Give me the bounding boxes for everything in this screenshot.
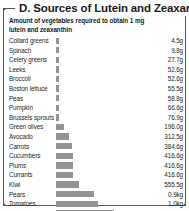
chart-row-label: Carrots xyxy=(9,142,56,152)
chart-bar xyxy=(56,191,94,197)
chart-row: Kiwi555.5g xyxy=(9,180,183,190)
chart-row-value: 9.8g xyxy=(153,46,183,56)
chart-row-value: 58.8g xyxy=(153,94,183,104)
chart-row-value: 4.5g xyxy=(153,36,183,46)
chart-bar-track xyxy=(56,94,153,104)
chart-bar xyxy=(56,76,59,82)
chart-row: Peas58.8g xyxy=(9,94,183,104)
chart-row-label: Spinach xyxy=(9,46,56,56)
chart-bar xyxy=(56,133,69,139)
chart-row: Leeks52.6g xyxy=(9,65,183,75)
chart-row-label: Kiwi xyxy=(9,180,56,190)
chart-bar-track xyxy=(56,190,153,200)
chart-row: Pumpkin66.6g xyxy=(9,103,183,113)
chart-bar-track xyxy=(56,170,153,180)
chart-row-label: Broccoli xyxy=(9,74,56,84)
chart-row: Broccoli52.6g xyxy=(9,74,183,84)
chart-row: Plums416.6g xyxy=(9,161,183,171)
chart-row-value: 1.0kg xyxy=(153,199,183,209)
chart-row-value: 52.6g xyxy=(153,65,183,75)
chart-row-value: 66.6g xyxy=(153,103,183,113)
chart-bar-track xyxy=(56,55,153,65)
chart-row: Grapes1.38kg xyxy=(9,209,183,211)
chart-row-label: Currants xyxy=(9,170,56,180)
panel-frame-right-edge xyxy=(185,8,186,206)
chart-bar xyxy=(56,143,72,149)
chart-row-value: 27.7g xyxy=(153,55,183,65)
chart-bar-track xyxy=(56,142,153,152)
chart-row-label: Collard greens xyxy=(9,36,56,46)
chart-row-value: 555.5g xyxy=(153,180,183,190)
chart-bar-track xyxy=(56,46,153,56)
chart-row-value: 52.6g xyxy=(153,74,183,84)
chart-bar-track xyxy=(56,161,153,171)
chart-row: Cucumbers416.6g xyxy=(9,151,183,161)
chart-row-value: 384.6g xyxy=(153,142,183,152)
panel-title: D. Sources of Lutein and Zeaxanthin xyxy=(17,0,189,16)
chart-row-value: 55.5g xyxy=(153,84,183,94)
chart-bar-track xyxy=(56,36,153,46)
chart-row-label: Leeks xyxy=(9,65,56,75)
chart-row-value: 76.9g xyxy=(153,113,183,123)
chart-bar-track xyxy=(56,113,153,123)
chart-row: Boston lettuce55.5g xyxy=(9,84,183,94)
chart-row-label: Avocado xyxy=(9,132,56,142)
chart-bar xyxy=(56,181,79,187)
chart-bar xyxy=(56,85,59,91)
chart-bar xyxy=(56,105,59,111)
chart-bar xyxy=(56,95,59,101)
chart-row: Carrots384.6g xyxy=(9,142,183,152)
chart-row-value: 196.0g xyxy=(153,122,183,132)
chart-row-label: Celery greens xyxy=(9,55,56,65)
chart-row-label: Pumpkin xyxy=(9,103,56,113)
chart-row-label: Peas xyxy=(9,94,56,104)
panel-subtitle: Amount of vegetables required to obtain … xyxy=(9,17,149,34)
chart-bar-track xyxy=(56,103,153,113)
chart-row-value: 416.6g xyxy=(153,151,183,161)
chart-bar-track xyxy=(56,180,153,190)
chart-row: Currants416.6g xyxy=(9,170,183,180)
chart-row-label: Cucumbers xyxy=(9,151,56,161)
chart-bar-track xyxy=(56,199,153,209)
chart-bar-track xyxy=(56,209,153,211)
chart-bar xyxy=(56,172,73,178)
chart-row-value: 312.5g xyxy=(153,132,183,142)
chart-bar-track xyxy=(56,74,153,84)
chart-bar xyxy=(56,38,59,44)
chart-row: Avocado312.5g xyxy=(9,132,183,142)
chart-bar xyxy=(56,201,98,207)
chart-row: Spinach9.8g xyxy=(9,46,183,56)
chart-row: Brussels sprouts76.9g xyxy=(9,113,183,123)
chart-bar-track xyxy=(56,132,153,142)
chart-row-label: Pears xyxy=(9,190,56,200)
chart-bar xyxy=(56,210,114,211)
chart-bar xyxy=(56,57,59,63)
chart-row-value: 0.9kg xyxy=(153,190,183,200)
panel-frame-left-edge xyxy=(3,8,4,206)
chart-bar-track xyxy=(56,151,153,161)
chart-bar xyxy=(56,153,73,159)
chart-bar-track xyxy=(56,65,153,75)
chart-bar xyxy=(56,47,59,53)
chart-bar xyxy=(56,124,64,130)
chart-row-label: Brussels sprouts xyxy=(9,113,56,123)
horizontal-bar-chart: Collard greens4.5gSpinach9.8gCelery gree… xyxy=(9,36,183,203)
chart-row-label: Boston lettuce xyxy=(9,84,56,94)
chart-row-value: 1.38kg xyxy=(153,209,183,211)
chart-row-label: Tomatoes xyxy=(9,199,56,209)
chart-bar-track xyxy=(56,84,153,94)
chart-bar xyxy=(56,114,59,120)
chart-row: Collard greens4.5g xyxy=(9,36,183,46)
chart-row-label: Green olives xyxy=(9,122,56,132)
chart-row-label: Grapes xyxy=(9,209,56,211)
lutein-zeaxanthin-sources-panel: D. Sources of Lutein and Zeaxanthin Amou… xyxy=(0,0,189,211)
chart-bar xyxy=(56,66,59,72)
chart-row: Pears0.9kg xyxy=(9,190,183,200)
chart-bar-track xyxy=(56,122,153,132)
chart-row: Celery greens27.7g xyxy=(9,55,183,65)
chart-row-value: 416.6g xyxy=(153,170,183,180)
chart-row-label: Plums xyxy=(9,161,56,171)
chart-row-value: 416.6g xyxy=(153,161,183,171)
panel-frame-corner-top-left xyxy=(3,8,9,14)
chart-bar xyxy=(56,162,73,168)
